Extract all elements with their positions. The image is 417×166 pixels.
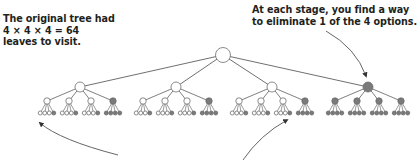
level1-node-eliminated [363,82,373,92]
level2-node-eliminated [206,98,212,104]
leaf-node [139,111,143,115]
arrow-to-eliminated-branch-icon [326,31,366,76]
level1-node [267,82,277,92]
leaf-node-eliminated [104,111,108,115]
leaf-node-eliminated [205,111,209,115]
leaf-node [178,111,182,115]
level2-node [88,98,94,104]
leaf-node-eliminated [113,111,117,115]
leaf-node-eliminated [379,111,383,115]
leaf-node-eliminated [109,111,113,115]
leaf-node [156,111,160,115]
leaf-node-eliminated [370,111,374,115]
level2-node-eliminated [332,98,338,104]
level1-node [75,82,85,92]
leaf-node [274,111,278,115]
arrow-to-third-group-leaf-icon [243,120,287,160]
leaf-node-eliminated [192,111,196,115]
root-node [216,48,231,63]
leaf-node [279,111,283,115]
leaf-node-eliminated [326,111,330,115]
leaf-node [143,111,147,115]
leaf-node [43,111,47,115]
leaf-node [47,111,51,115]
leaf-node [60,111,64,115]
leaf-node-eliminated [118,111,122,115]
level2-node [140,98,146,104]
leaf-node-eliminated [96,111,100,115]
level2-node [66,98,72,104]
leaf-node-eliminated [340,111,344,115]
leaf-node-eliminated [401,111,405,115]
leaf-node [165,111,169,115]
leaf-node [230,111,234,115]
leaf-node-eliminated [406,111,410,115]
tree-nodes [38,48,410,116]
leaf-node-eliminated [244,111,248,115]
tree-edges [40,55,408,113]
leaf-node [134,111,138,115]
level2-node-eliminated [354,98,360,104]
callout-arrows [40,31,366,160]
level2-node-eliminated [110,98,116,104]
tree-edge [223,55,272,87]
leaf-node-eliminated [335,111,339,115]
leaf-node [69,111,73,115]
level2-node [162,98,168,104]
leaf-node [187,111,191,115]
leaf-node-eliminated [392,111,396,115]
leaf-node [38,111,42,115]
leaf-node-eliminated [209,111,213,115]
leaf-node-eliminated [288,111,292,115]
leaf-node [183,111,187,115]
leaf-node-eliminated [310,111,314,115]
level2-node-eliminated [302,98,308,104]
leaf-node [257,111,261,115]
leaf-node-eliminated [296,111,300,115]
leaf-node-eliminated [214,111,218,115]
level2-node [44,98,50,104]
level2-node [184,98,190,104]
leaf-node-eliminated [331,111,335,115]
leaf-node-eliminated [305,111,309,115]
level2-node [280,98,286,104]
leaf-node-eliminated [148,111,152,115]
leaf-node-eliminated [362,111,366,115]
leaf-node [65,111,69,115]
leaf-node [261,111,265,115]
leaf-node-eliminated [266,111,270,115]
leaf-node-eliminated [397,111,401,115]
leaf-node-eliminated [301,111,305,115]
arrow-to-first-leaf-icon [40,123,118,155]
leaf-node-eliminated [353,111,357,115]
leaf-node [252,111,256,115]
leaf-node-eliminated [384,111,388,115]
leaf-node [283,111,287,115]
leaf-node [82,111,86,115]
leaf-node-eliminated [348,111,352,115]
leaf-node [91,111,95,115]
leaf-node-eliminated [52,111,56,115]
level2-node-eliminated [398,98,404,104]
leaf-node-eliminated [375,111,379,115]
leaf-node-eliminated [170,111,174,115]
leaf-node [235,111,239,115]
leaf-node-eliminated [74,111,78,115]
tree-edge [223,55,368,87]
level2-node-eliminated [376,98,382,104]
leaf-node [87,111,91,115]
leaf-node [161,111,165,115]
level2-node [258,98,264,104]
tree-edge [80,55,223,87]
leaf-node-eliminated [357,111,361,115]
level1-node [171,82,181,92]
leaf-node-eliminated [200,111,204,115]
leaf-node [239,111,243,115]
level2-node [236,98,242,104]
